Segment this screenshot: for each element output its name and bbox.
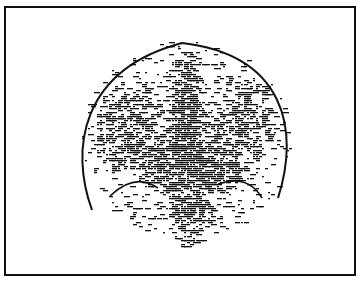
skull-arc [82,43,286,210]
left-basal-curve [110,182,158,196]
brain-scan-figure [0,0,361,282]
right-basal-curve [218,181,262,198]
head-outline [0,0,361,282]
